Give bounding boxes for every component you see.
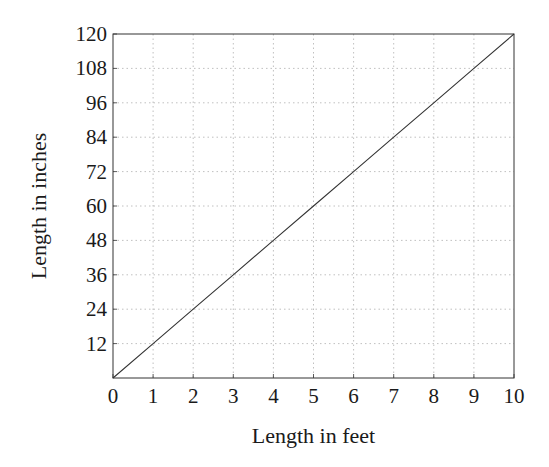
x-tick-label: 6 (348, 384, 359, 408)
x-tick-label: 8 (429, 384, 440, 408)
y-tick-label: 72 (86, 160, 107, 184)
line-chart: 012345678910 1224364860728496108120 Leng… (0, 0, 549, 467)
y-tick-label: 60 (86, 194, 107, 218)
x-tick-label: 1 (148, 384, 159, 408)
x-tick-label: 7 (388, 384, 399, 408)
x-tick-label: 10 (504, 384, 525, 408)
x-tick-label: 4 (268, 384, 279, 408)
data-series (113, 34, 514, 378)
x-axis-label: Length in feet (252, 423, 375, 448)
y-tick-label: 108 (76, 56, 108, 80)
x-tick-label: 0 (108, 384, 119, 408)
x-tick-label: 2 (188, 384, 199, 408)
y-tick-label: 120 (76, 22, 108, 46)
y-tick-label: 84 (86, 125, 108, 149)
x-tick-label: 3 (228, 384, 239, 408)
y-tick-label: 12 (86, 332, 107, 356)
y-tick-label: 24 (86, 297, 108, 321)
y-tick-label: 36 (86, 263, 107, 287)
y-axis-label: Length in inches (26, 133, 51, 280)
y-axis-ticks: 1224364860728496108120 (76, 22, 118, 356)
series-line (113, 34, 514, 378)
x-tick-label: 9 (469, 384, 480, 408)
y-tick-label: 48 (86, 228, 107, 252)
y-tick-label: 96 (86, 91, 107, 115)
x-axis-ticks: 012345678910 (108, 374, 525, 408)
x-tick-label: 5 (308, 384, 319, 408)
